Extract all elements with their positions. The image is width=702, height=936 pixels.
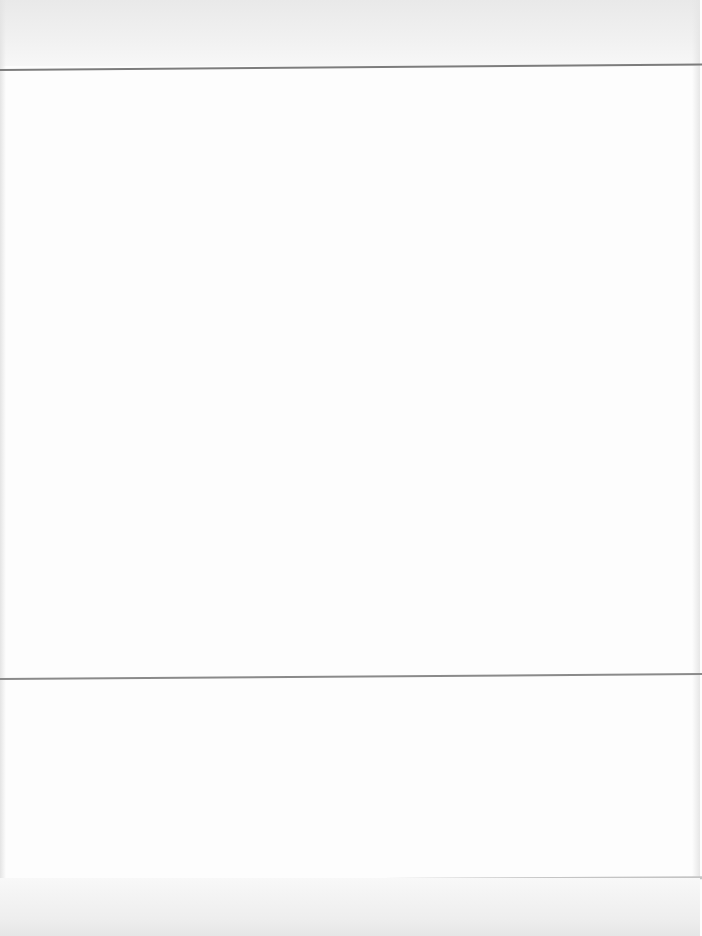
scan-right-edge — [692, 0, 700, 936]
scan-bottom-band — [0, 878, 700, 936]
header-text-block — [14, 84, 684, 174]
horizontal-rule-middle — [0, 673, 702, 679]
lower-text-block — [20, 690, 680, 870]
body-text-block — [14, 190, 684, 660]
scan-left-edge — [0, 0, 6, 936]
scan-top-band — [0, 0, 700, 66]
